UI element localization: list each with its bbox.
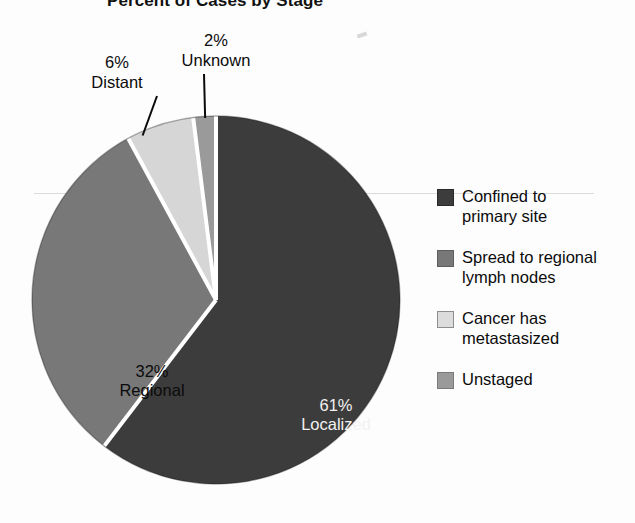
scan-artifact-speck xyxy=(357,32,368,39)
legend-label-regional-line2: lymph nodes xyxy=(462,268,556,286)
legend-item-unstaged[interactable]: Unstaged xyxy=(437,369,633,389)
legend-label-regional: Spread to regional lymph nodes xyxy=(462,247,597,287)
legend-label-distant-line1: Cancer has xyxy=(462,309,546,327)
pie-label-localized-percent: 61% xyxy=(319,396,352,414)
callout-unknown-name: Unknown xyxy=(182,51,251,69)
pie-label-localized-name: Localized xyxy=(301,415,371,433)
callout-distant-percent: 6% xyxy=(105,53,129,71)
pie-label-regional: 32% Regional xyxy=(92,362,212,400)
pie-chart-figure: Percent of Cases by Stage 61% Local xyxy=(0,0,635,523)
legend-item-cancer-has-metastasized[interactable]: Cancer has metastasized xyxy=(437,308,633,348)
legend-label-regional-line1: Spread to regional xyxy=(462,248,597,266)
legend-item-spread-to-regional-lymph-nodes[interactable]: Spread to regional lymph nodes xyxy=(437,247,633,287)
pie-label-regional-percent: 32% xyxy=(135,362,168,380)
chart-title: Percent of Cases by Stage xyxy=(0,0,430,11)
legend-label-distant: Cancer has metastasized xyxy=(462,308,559,348)
legend-label-distant-line2: metastasized xyxy=(462,329,559,347)
callout-unknown-percent: 2% xyxy=(204,31,228,49)
pie-svg xyxy=(30,106,402,496)
legend-label-localized-line2: primary site xyxy=(462,207,547,225)
chart-legend: Confined to primary site Spread to regio… xyxy=(437,186,633,410)
callout-leader-line-unknown xyxy=(203,74,206,118)
legend-label-localized: Confined to primary site xyxy=(462,186,547,226)
legend-swatch-icon-localized xyxy=(437,189,454,206)
callout-label-unknown: 2% Unknown xyxy=(156,30,276,70)
legend-label-localized-line1: Confined to xyxy=(462,187,546,205)
legend-label-unknown-line1: Unstaged xyxy=(462,370,533,388)
pie-label-localized: 61% Localized xyxy=(276,396,396,434)
pie-label-regional-name: Regional xyxy=(119,381,184,399)
legend-swatch-icon-regional xyxy=(437,250,454,267)
legend-swatch-icon-unknown xyxy=(437,372,454,389)
legend-label-unknown: Unstaged xyxy=(462,369,533,389)
callout-distant-name: Distant xyxy=(91,73,142,91)
pie-plot-area: 61% Localized 32% Regional xyxy=(30,106,402,496)
legend-swatch-icon-distant xyxy=(437,311,454,328)
legend-item-confined-to-primary-site[interactable]: Confined to primary site xyxy=(437,186,633,226)
